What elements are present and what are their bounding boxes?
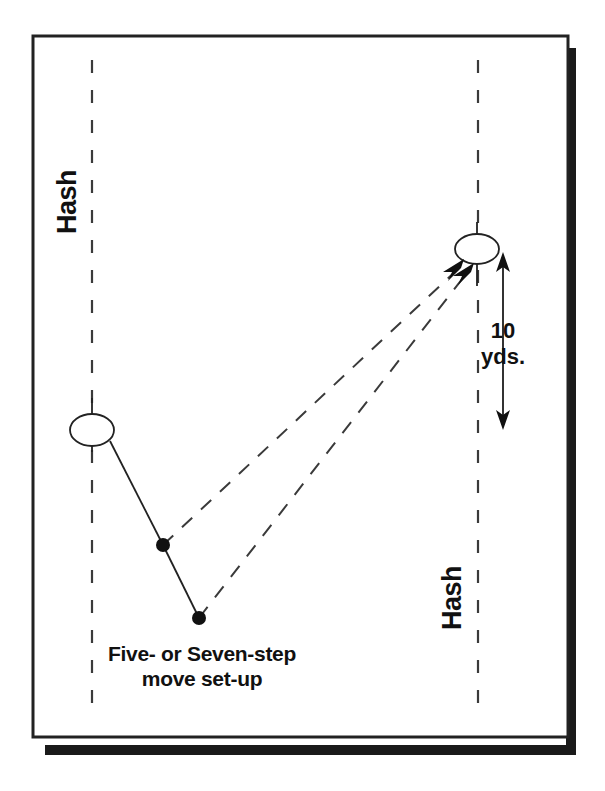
play-diagram-container: Hash Hash [0, 0, 605, 791]
distance-value: 10 [491, 318, 515, 343]
caption-line-1: Five- or Seven-step [108, 642, 296, 665]
hash-label-right: Hash [437, 566, 467, 630]
break-point-seven-step [192, 611, 206, 625]
football-play-diagram: Hash Hash [0, 0, 605, 791]
caption-line-2: move set-up [142, 667, 262, 690]
break-point-five-step [156, 538, 170, 552]
receiver-target-marker [455, 234, 499, 264]
receiver-start-marker [70, 414, 114, 446]
hash-label-left: Hash [52, 170, 82, 234]
distance-unit: yds. [481, 344, 525, 369]
diagram-frame [33, 36, 568, 737]
